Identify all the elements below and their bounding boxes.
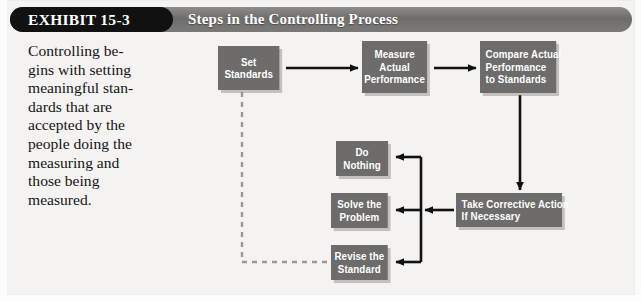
exhibit-figure: EXHIBIT 15-3 Steps in the Controlling Pr… [0, 0, 641, 302]
flow-node-do-nothing: DoNothing [336, 141, 388, 176]
flow-node-solve-problem: Solve theProblem [331, 193, 388, 228]
flow-node-label: Standard [338, 263, 381, 275]
flow-node-label: Set [241, 56, 256, 68]
flow-node-label: Performance [486, 61, 547, 73]
flow-node-set-standards: SetStandards [218, 46, 279, 90]
flow-node-measure: MeasureActualPerformance [362, 41, 427, 93]
flow-node-label: Revise the [334, 250, 384, 262]
controlling-process-flowchart: SetStandardsMeasureActualPerformanceComp… [0, 0, 641, 302]
flow-node-label: Do [355, 146, 368, 158]
flow-node-label: Problem [340, 211, 380, 223]
flow-node-label: to Standards [486, 73, 547, 85]
flow-node-label: Actual [379, 61, 409, 73]
flow-node-revise-standard: Revise theStandard [331, 245, 388, 280]
flow-node-label: Solve the [337, 198, 381, 210]
flow-node-label: Take Corrective Action [462, 198, 569, 210]
flow-node-take-action: Take Corrective ActionIf Necessary [456, 193, 562, 227]
flow-node-label: Compare Actual [486, 48, 562, 60]
edge-set-to-revise-feedback [242, 92, 328, 262]
flow-node-label: Performance [364, 73, 425, 85]
flow-node-label: Standards [224, 68, 273, 80]
flow-node-label: Nothing [343, 159, 381, 171]
flow-node-label: Measure [374, 48, 414, 60]
flow-node-compare: Compare ActualPerformanceto Standards [480, 41, 556, 93]
flow-node-label: If Necessary [462, 210, 521, 222]
